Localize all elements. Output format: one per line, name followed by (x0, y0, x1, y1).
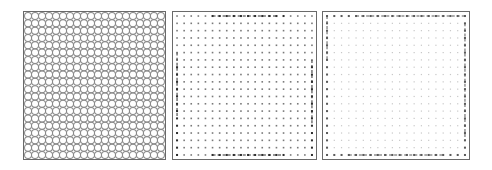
faint-dot-grid-graphic (323, 12, 469, 159)
dot-grid-panel (172, 11, 317, 160)
faint-dot-grid-panel (322, 11, 470, 160)
dot-grid-graphic (173, 12, 316, 159)
circle-grid-panel (23, 11, 166, 160)
circle-grid-graphic (24, 12, 165, 159)
